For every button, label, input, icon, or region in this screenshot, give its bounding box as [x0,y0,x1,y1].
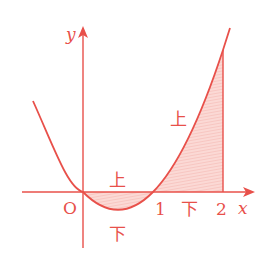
x-tick-1: 1 [155,199,166,219]
region-label-lower-left: 下 [109,224,126,244]
region-label-upper-right: 上 [170,109,187,129]
shaded-region-1-2 [153,50,223,192]
y-axis-label: y [65,24,76,44]
region-label-upper-left: 上 [109,170,126,190]
graph-canvas: y x O 1 2 上 下 上 下 [0,0,269,269]
region-label-lower-right: 下 [181,199,198,219]
x-axis-label: x [238,198,248,218]
origin-label: O [63,198,77,218]
x-tick-2: 2 [216,199,227,219]
